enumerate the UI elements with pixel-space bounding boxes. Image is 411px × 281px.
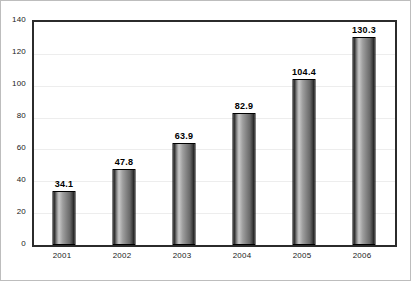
plot-area: 34.1 47.8 63.9 82.9 104.4 130.3 bbox=[32, 20, 397, 247]
bar-group-2004: 82.9 bbox=[214, 22, 274, 245]
bar-2004[interactable] bbox=[233, 113, 256, 245]
x-axis: 2001 2002 2003 2004 2005 2006 bbox=[32, 251, 397, 269]
y-tick-label-80: 80 bbox=[17, 112, 26, 120]
x-tick-label-2002: 2002 bbox=[92, 251, 152, 260]
bar-chart-figure: 140 120 100 80 60 40 20 0 34.1 47.8 63.9 bbox=[0, 0, 411, 281]
bar-2001[interactable] bbox=[53, 191, 76, 245]
y-tick-label-0: 0 bbox=[21, 240, 26, 248]
bar-value-label-2005: 104.4 bbox=[292, 67, 316, 77]
bar-group-2002: 47.8 bbox=[94, 22, 154, 245]
x-tick-label-2001: 2001 bbox=[32, 251, 92, 260]
x-tick-label-2005: 2005 bbox=[272, 251, 332, 260]
y-tick-label-20: 20 bbox=[17, 208, 26, 216]
bar-value-label-2001: 34.1 bbox=[55, 179, 74, 189]
y-tick-label-120: 120 bbox=[12, 48, 26, 56]
y-axis: 140 120 100 80 60 40 20 0 bbox=[1, 1, 30, 281]
y-tick-label-100: 100 bbox=[12, 80, 26, 88]
bars-layer: 34.1 47.8 63.9 82.9 104.4 130.3 bbox=[34, 22, 395, 245]
x-tick-label-2006: 2006 bbox=[332, 251, 392, 260]
bar-2003[interactable] bbox=[173, 143, 196, 245]
bar-group-2006: 130.3 bbox=[334, 22, 394, 245]
bar-value-label-2006: 130.3 bbox=[352, 25, 376, 35]
bar-2002[interactable] bbox=[113, 169, 136, 245]
bar-group-2001: 34.1 bbox=[34, 22, 94, 245]
bar-value-label-2003: 63.9 bbox=[175, 131, 194, 141]
y-tick-label-60: 60 bbox=[17, 144, 26, 152]
bar-value-label-2002: 47.8 bbox=[115, 157, 134, 167]
bar-group-2003: 63.9 bbox=[154, 22, 214, 245]
bar-2005[interactable] bbox=[293, 79, 316, 245]
bar-value-label-2004: 82.9 bbox=[235, 101, 254, 111]
bar-group-2005: 104.4 bbox=[274, 22, 334, 245]
y-tick-label-140: 140 bbox=[12, 16, 26, 24]
x-tick-label-2004: 2004 bbox=[212, 251, 272, 260]
bar-2006[interactable] bbox=[353, 37, 376, 245]
x-tick-label-2003: 2003 bbox=[152, 251, 212, 260]
y-tick-label-40: 40 bbox=[17, 176, 26, 184]
